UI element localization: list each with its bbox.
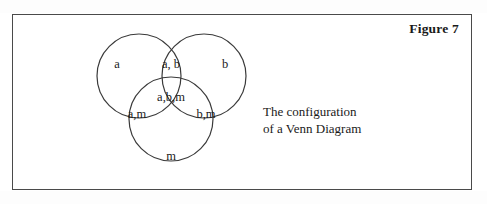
venn-label-a-only: a — [114, 58, 120, 71]
venn-diagram: a a, b b a,b,m a,m b,m m — [13, 15, 263, 191]
venn-label-a-b-m: a,b,m — [157, 91, 185, 104]
venn-label-b-only: b — [222, 58, 228, 71]
scan-ghost-top-margin — [0, 0, 487, 13]
venn-label-b-and-m: b,m — [196, 108, 215, 121]
figure-title: Figure 7 — [409, 21, 459, 37]
figure-caption: The configuration of a Venn Diagram — [263, 103, 463, 137]
caption-line-1: The configuration — [263, 103, 463, 120]
venn-circles-svg — [13, 15, 263, 191]
venn-label-a-and-b: a, b — [162, 58, 180, 71]
circle-set-a — [97, 34, 181, 118]
circle-set-b — [162, 34, 246, 118]
venn-label-a-and-m: a,m — [128, 108, 146, 121]
venn-label-m-only: m — [166, 150, 176, 163]
figure-frame: Figure 7 a a, b b a,b,m a,m b,m m The co… — [12, 14, 472, 190]
caption-line-2: of a Venn Diagram — [263, 120, 463, 137]
scan-ghost-bottom-margin — [0, 191, 487, 204]
